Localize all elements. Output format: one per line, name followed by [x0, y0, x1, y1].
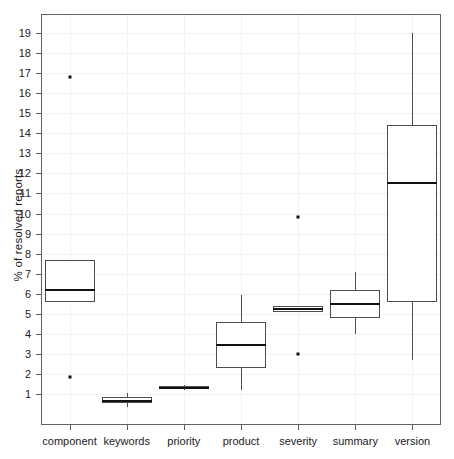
whisker-lower: [412, 302, 413, 360]
median-line: [159, 387, 209, 389]
y-tick-label: 13: [9, 147, 31, 159]
y-tick-label: 6: [9, 288, 31, 300]
y-tick-label: 2: [9, 368, 31, 380]
x-tick-mark: [184, 425, 185, 430]
y-tick-label: 12: [9, 167, 31, 179]
y-tick-mark: [36, 254, 41, 255]
box-iqr: [45, 260, 95, 302]
y-tick-label: 7: [9, 268, 31, 280]
outlier-point: [297, 352, 300, 355]
y-tick-mark: [36, 93, 41, 94]
y-tick-label: 1: [9, 388, 31, 400]
box-iqr: [387, 125, 437, 301]
median-line: [45, 289, 95, 291]
y-tick-label: 18: [9, 47, 31, 59]
whisker-upper: [241, 295, 242, 322]
y-tick-label: 4: [9, 328, 31, 340]
median-line: [273, 308, 323, 310]
outlier-point: [68, 375, 71, 378]
y-tick-label: 11: [9, 187, 31, 199]
y-tick-label: 3: [9, 348, 31, 360]
y-tick-label: 17: [9, 67, 31, 79]
y-tick-mark: [36, 374, 41, 375]
y-tick-mark: [36, 53, 41, 54]
y-tick-mark: [36, 294, 41, 295]
median-line: [330, 303, 380, 305]
y-tick-mark: [36, 113, 41, 114]
x-tick-label-version: version: [395, 435, 430, 447]
x-tick-label-keywords: keywords: [103, 435, 149, 447]
y-tick-mark: [36, 73, 41, 74]
gridline-vertical: [298, 15, 299, 424]
x-tick-mark: [127, 425, 128, 430]
outlier-point: [297, 215, 300, 218]
median-line: [102, 400, 152, 402]
y-tick-label: 9: [9, 228, 31, 240]
whisker-lower: [355, 318, 356, 334]
y-tick-label: 8: [9, 248, 31, 260]
gridline-vertical: [184, 15, 185, 424]
y-tick-mark: [36, 33, 41, 34]
y-tick-label: 14: [9, 127, 31, 139]
y-tick-label: 19: [9, 27, 31, 39]
whisker-lower: [127, 403, 128, 407]
x-tick-label-product: product: [223, 435, 260, 447]
outlier-point: [68, 76, 71, 79]
boxplot-chart: % of resolved reports 123456789101112131…: [0, 0, 454, 459]
whisker-upper: [355, 272, 356, 290]
y-tick-label: 5: [9, 308, 31, 320]
y-tick-mark: [36, 173, 41, 174]
x-tick-label-severity: severity: [279, 435, 317, 447]
y-tick-mark: [36, 274, 41, 275]
x-tick-mark: [298, 425, 299, 430]
median-line: [387, 182, 437, 184]
x-tick-label-summary: summary: [333, 435, 378, 447]
gridline-vertical: [355, 15, 356, 424]
median-line: [216, 344, 266, 346]
x-tick-mark: [241, 425, 242, 430]
x-tick-mark: [412, 425, 413, 430]
x-tick-label-component: component: [42, 435, 96, 447]
y-tick-label: 16: [9, 87, 31, 99]
y-tick-mark: [36, 334, 41, 335]
whisker-lower: [241, 368, 242, 390]
y-tick-mark: [36, 314, 41, 315]
whisker-upper: [412, 33, 413, 125]
y-tick-label: 15: [9, 107, 31, 119]
whisker-lower: [184, 389, 185, 390]
y-tick-mark: [36, 133, 41, 134]
y-tick-mark: [36, 234, 41, 235]
y-tick-mark: [36, 153, 41, 154]
y-tick-label: 10: [9, 208, 31, 220]
x-tick-mark: [70, 425, 71, 430]
gridline-vertical: [127, 15, 128, 424]
y-tick-mark: [36, 214, 41, 215]
x-tick-mark: [355, 425, 356, 430]
y-tick-mark: [36, 394, 41, 395]
y-tick-mark: [36, 354, 41, 355]
x-tick-label-priority: priority: [167, 435, 200, 447]
y-tick-mark: [36, 193, 41, 194]
